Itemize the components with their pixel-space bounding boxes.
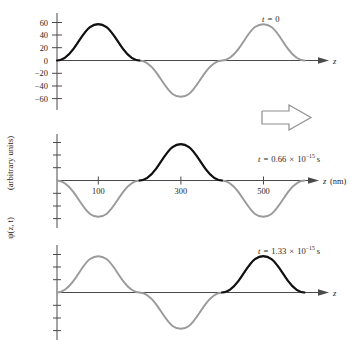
panel-top-x-axis-arrowhead [318, 57, 329, 63]
panel-top-yticklabel-0: 60 [40, 19, 48, 28]
y-axis-label-symbol: ψ(z, t) [5, 217, 15, 239]
panel-top-yticklabel-6: −60 [35, 95, 48, 104]
wave-figure: z 60 40 20 0 −20 −40 −60 t=0 [0, 0, 363, 359]
panel-middle-x-axis-label: z [322, 176, 327, 186]
panel-top-yticklabel-4: −20 [35, 69, 48, 78]
panel-top-time-label: t=0 [262, 14, 280, 24]
panel-bottom-wave-highlight [222, 256, 305, 292]
panel-middle-xticklabel-300: 300 [175, 187, 188, 196]
propagation-arrow [262, 105, 311, 130]
panel-middle: z (nm) 100 300 500 t=0.66×10−15s [53, 134, 346, 228]
panel-top-yticklabel-5: −40 [35, 82, 48, 91]
panel-top-x-axis-label: z [332, 56, 337, 66]
panel-top: z 60 40 20 0 −20 −40 −60 t=0 [35, 13, 337, 110]
y-axis-label-units: (arbitrary units) [5, 136, 15, 190]
panel-bottom-x-axis-label: z [332, 288, 337, 298]
panel-middle-x-axis-arrowhead [308, 177, 319, 183]
figure-canvas: z 60 40 20 0 −20 −40 −60 t=0 [0, 0, 363, 359]
panel-top-yticklabel-3: 0 [44, 57, 48, 66]
panel-bottom-x-axis-arrowhead [318, 289, 329, 295]
panel-middle-xticklabel-500: 500 [257, 187, 270, 196]
panel-top-yticklabel-2: 20 [40, 44, 48, 53]
panel-middle-wave-highlight [140, 144, 223, 180]
panel-middle-x-axis-unit: (nm) [330, 177, 346, 186]
panel-top-yticklabel-1: 40 [40, 31, 48, 40]
y-axis-label-group: ψ(z, t) (arbitrary units) [5, 136, 15, 239]
panel-bottom: z t=1.33×10−15s [53, 245, 337, 340]
panel-bottom-time-label: t=1.33×10−15s [258, 245, 321, 256]
panel-top-wave-highlight [57, 24, 140, 60]
panel-middle-time-label: t=0.66×10−15s [258, 153, 321, 164]
panel-middle-xticklabel-100: 100 [92, 187, 105, 196]
